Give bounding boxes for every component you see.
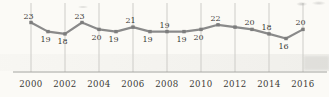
line-chart: 2000200220042006200820102012201420162319… (0, 0, 329, 97)
scan-smudge (76, 5, 90, 9)
scan-smudge (304, 56, 329, 70)
data-point-label: 19 (40, 35, 50, 44)
data-point-marker (233, 25, 236, 28)
data-point-label: 22 (210, 14, 220, 23)
data-point-label: 18 (57, 37, 67, 46)
data-point-marker (216, 23, 219, 26)
x-axis-tick-label: 2012 (223, 79, 246, 89)
data-point-marker (182, 30, 185, 33)
x-axis-tick-label: 2006 (121, 79, 144, 89)
x-axis-tick-label: 2004 (87, 79, 111, 89)
data-point-label: 19 (142, 35, 152, 44)
data-point-label: 20 (91, 33, 101, 42)
data-point-marker (63, 32, 66, 35)
x-axis-tick-label: 2014 (257, 79, 281, 89)
data-point-label: 18 (261, 23, 271, 32)
chart-canvas: 2000200220042006200820102012201420162319… (0, 0, 329, 97)
data-point-marker (284, 37, 287, 40)
x-axis-tick-label: 2002 (53, 79, 76, 89)
data-point-marker (165, 30, 168, 33)
data-point-label: 21 (125, 16, 135, 25)
data-point-marker (250, 28, 253, 31)
data-point-marker (46, 30, 49, 33)
data-point-label: 20 (193, 33, 203, 42)
data-point-label: 19 (176, 35, 186, 44)
data-point-marker (97, 28, 100, 31)
data-point-label: 16 (278, 42, 288, 51)
data-point-marker (80, 21, 83, 24)
data-point-label: 23 (23, 12, 33, 21)
data-point-marker (114, 30, 117, 33)
data-point-marker (301, 28, 304, 31)
data-point-label: 19 (159, 21, 169, 30)
x-axis-tick-label: 2008 (155, 79, 178, 89)
data-point-marker (29, 21, 32, 24)
scan-smudge (295, 0, 329, 9)
data-point-marker (148, 30, 151, 33)
data-point-marker (131, 25, 134, 28)
data-point-label: 20 (244, 18, 254, 27)
data-point-marker (267, 32, 270, 35)
data-point-label: 23 (74, 12, 84, 21)
data-point-marker (199, 28, 202, 31)
data-point-label: 19 (108, 35, 118, 44)
x-axis-tick-label: 2016 (291, 79, 314, 89)
data-point-label: 20 (295, 18, 305, 27)
x-axis-tick-label: 2000 (19, 79, 42, 89)
x-axis-tick-label: 2010 (189, 79, 212, 89)
